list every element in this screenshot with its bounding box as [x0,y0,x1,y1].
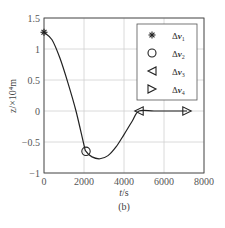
x-tick-label: 8000 [194,176,214,187]
y-axis-label: z/×10⁴m [7,79,18,113]
legend: Δv1Δv2Δv3Δv4 [137,24,197,100]
chart: 1.510.50−0.5−1 02000400060008000 Δv1Δv2Δ… [0,0,225,228]
legend-box [137,24,197,100]
x-axis-ticks: 02000400060008000 [42,176,215,187]
y-tick-label: 1.5 [28,13,41,24]
x-axis-label: t/s [119,187,129,198]
y-tick-label: 0.5 [28,75,41,86]
y-tick-label: 1 [35,44,40,55]
y-axis-ticks: 1.510.50−0.5−1 [22,13,40,179]
x-tick-label: 2000 [74,176,94,187]
y-tick-label: 0 [35,106,40,117]
x-tick-label: 0 [42,176,47,187]
figure-caption: (b) [118,201,130,213]
y-tick-label: −0.5 [22,137,40,148]
y-tick-label: −1 [29,168,40,179]
x-tick-label: 4000 [114,176,134,187]
x-tick-label: 6000 [154,176,174,187]
